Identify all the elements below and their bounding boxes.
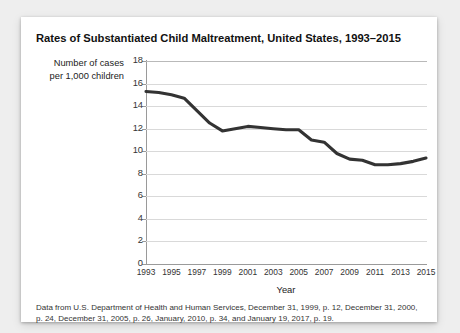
x-tick-label-1997: 1997 (183, 267, 211, 277)
y-tick-label-18: 18 (103, 55, 143, 65)
x-tick-label-2013: 2013 (387, 267, 415, 277)
x-axis-title: Year (146, 284, 426, 295)
figure-card: Rates of Substantiated Child Maltreatmen… (21, 17, 437, 322)
source-note: Data from U.S. Department of Health and … (36, 302, 426, 324)
y-tick-label-12: 12 (103, 123, 143, 133)
y-tick-label-4: 4 (103, 213, 143, 223)
y-tick-label-10: 10 (103, 145, 143, 155)
x-tick-label-1993: 1993 (132, 267, 160, 277)
y-tick-label-8: 8 (103, 168, 143, 178)
y-tick-label-16: 16 (103, 78, 143, 88)
x-tick-label-1999: 1999 (208, 267, 236, 277)
plot-area: 024681012141618 199319951997199920012003… (146, 61, 426, 264)
gridline-0 (146, 264, 427, 265)
x-tick-label-2007: 2007 (310, 267, 338, 277)
x-tick-label-1995: 1995 (157, 267, 185, 277)
y-tick-label-2: 2 (103, 235, 143, 245)
y-tick-label-6: 6 (103, 190, 143, 200)
x-tick-label-2001: 2001 (234, 267, 262, 277)
chart-title: Rates of Substantiated Child Maltreatmen… (36, 32, 401, 44)
x-tick-label-2015: 2015 (412, 267, 440, 277)
x-tick-label-2005: 2005 (285, 267, 313, 277)
x-tick-label-2009: 2009 (336, 267, 364, 277)
x-tick-label-2003: 2003 (259, 267, 287, 277)
data-series-line (146, 61, 426, 264)
y-tick-label-14: 14 (103, 100, 143, 110)
x-tick-label-2011: 2011 (361, 267, 389, 277)
